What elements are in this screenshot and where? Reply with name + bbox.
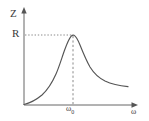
impedance-curve [24, 35, 128, 104]
omega-subscript: 0 [71, 109, 74, 115]
x-axis-label: ω [131, 108, 136, 116]
peak-value-label: R [12, 28, 19, 39]
plot-canvas [0, 0, 149, 121]
resonance-curve-figure: Z R ω0 ω [0, 0, 149, 121]
y-axis-arrowhead-icon [21, 7, 26, 14]
resonance-frequency-tick-label: ω0 [66, 105, 74, 115]
y-axis-label: Z [10, 8, 17, 19]
